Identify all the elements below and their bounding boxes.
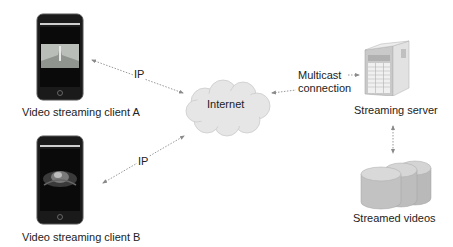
edge-label-ip-b: IP [137,155,149,167]
smartphone-icon [36,13,84,101]
edge-internet-server [272,90,296,93]
edge-label-ip-a: IP [133,68,145,80]
multicast-line1: Multicast [298,69,351,82]
storage-node [359,160,435,210]
client-b-label: Video streaming client B [22,231,140,243]
database-cylinders-icon [359,160,435,210]
server-node [363,38,413,96]
client-b-node [36,135,84,225]
client-a-label: Video streaming client A [22,106,140,118]
smartphone-icon [36,135,84,225]
internet-label: Internet [207,98,244,110]
client-a-node [36,13,84,101]
storage-label: Streamed videos [353,212,436,224]
edge-label-multicast: Multicast connection [298,69,351,95]
multicast-line2: connection [298,82,351,95]
internet-node: Internet [183,78,275,138]
server-tower-icon [363,38,413,96]
server-label: Streaming server [354,104,438,116]
